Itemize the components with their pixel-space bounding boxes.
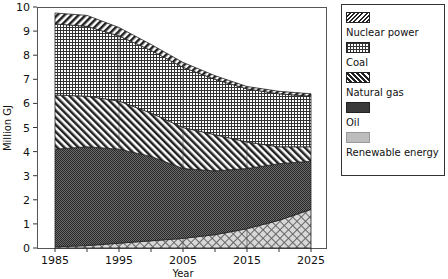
y-axis-title: Million GJ [2,105,13,151]
y-tick-label: 2 [23,194,30,207]
y-axis: 012345678910 [16,1,37,255]
renewable-swatch-icon [346,132,370,143]
legend-item-renewable-energy: Renewable energy [346,132,444,159]
legend-item-coal: Coal [346,42,444,69]
y-tick-label: 9 [23,25,30,38]
y-tick-label: 7 [23,73,30,86]
natural-gas-swatch-icon [346,72,370,83]
x-tick-label: 1995 [105,254,133,267]
oil-swatch-icon [346,102,370,113]
legend-item-nuclear-power: Nuclear power [346,12,444,39]
y-tick-label: 3 [23,170,30,183]
coal-swatch-icon [346,42,370,53]
y-tick-label: 8 [23,49,30,62]
legend-label: Nuclear power [346,26,444,39]
x-axis-title: Year [171,268,194,279]
x-tick-label: 1985 [41,254,69,267]
y-tick-label: 0 [23,242,30,255]
legend-item-natural-gas: Natural gas [346,72,444,99]
legend: Nuclear power Coal Natural gas Oil Renew… [341,4,445,176]
legend-label: Coal [346,56,444,69]
legend-label: Natural gas [346,86,444,99]
y-tick-label: 10 [16,1,30,14]
y-tick-label: 4 [23,146,30,159]
legend-label: Oil [346,116,444,129]
legend-item-oil: Oil [346,102,444,129]
x-tick-label: 2015 [233,254,261,267]
x-axis: 19851995200520152025 [41,248,325,267]
y-tick-label: 1 [23,218,30,231]
nuclear-swatch-icon [346,12,370,23]
y-tick-label: 6 [23,97,30,110]
y-tick-label: 5 [23,122,30,135]
legend-label: Renewable energy [346,146,444,159]
x-tick-label: 2025 [297,254,325,267]
x-tick-label: 2005 [169,254,197,267]
